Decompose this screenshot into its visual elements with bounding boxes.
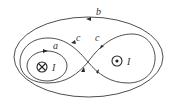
arrow-c-right-top-icon: [100, 45, 104, 49]
field-line-b: [14, 17, 163, 97]
current-into-page-icon: [37, 62, 47, 72]
field-diagram: b a c c I I: [0, 0, 174, 109]
field-line-c: [20, 34, 155, 83]
label-current-right: I: [126, 56, 131, 67]
arrow-a-icon: [43, 49, 48, 53]
label-current-left: I: [51, 62, 56, 73]
current-out-of-page-icon: [112, 56, 122, 66]
arrow-b-icon: [86, 17, 91, 21]
label-a: a: [53, 40, 58, 51]
label-b: b: [96, 6, 101, 17]
label-c-left: c: [76, 32, 81, 43]
label-c-right: c: [95, 32, 100, 43]
arrow-c-right-bottom-icon: [96, 69, 99, 74]
